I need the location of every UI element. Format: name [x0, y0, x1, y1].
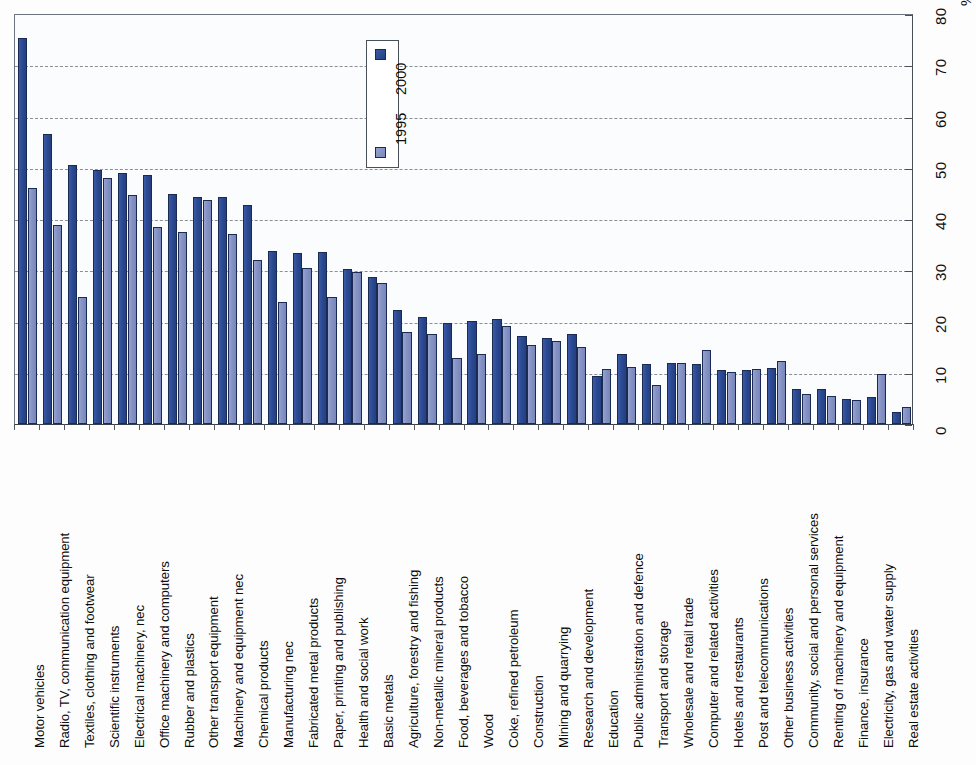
bar-1995-25 [652, 385, 661, 424]
bar-1995-1 [53, 225, 62, 424]
category-label-34: Electricity, gas and water supply [881, 564, 896, 748]
bar-2000-24 [617, 354, 626, 424]
category-tick-13 [339, 424, 340, 430]
category-tick-26 [663, 424, 664, 430]
category-label-14: Basic metals [381, 674, 396, 748]
bar-2000-15 [393, 310, 402, 424]
bar-1995-18 [477, 354, 486, 424]
category-label-26: Wholesale and retail trade [681, 597, 696, 748]
category-tick-12 [314, 424, 315, 430]
bar-1995-20 [527, 345, 536, 424]
category-label-2: Textiles, clothing and footwear [82, 575, 97, 748]
bar-2000-31 [792, 389, 801, 424]
category-label-11: Fabricated metal products [306, 598, 321, 748]
category-label-5: Office machinery and computers [157, 561, 172, 748]
category-label-24: Public administration and defence [631, 553, 646, 748]
gridline-60 [15, 118, 912, 119]
category-tick-end [913, 424, 914, 430]
bar-1995-7 [203, 200, 212, 424]
bar-2000-12 [318, 252, 327, 424]
bar-2000-27 [692, 364, 701, 424]
bar-1995-31 [802, 394, 811, 424]
category-label-28: Hotels and restaurants [731, 618, 746, 748]
category-tick-2 [64, 424, 65, 430]
value-tick-0 [905, 425, 912, 426]
bar-1995-9 [253, 260, 262, 425]
bar-1995-15 [402, 332, 411, 424]
value-label-70: 70 [932, 59, 949, 76]
category-label-18: Wood [481, 714, 496, 748]
bar-2000-33 [842, 399, 851, 424]
bar-1995-12 [327, 297, 336, 424]
category-label-19: Coke, refined petroleum [506, 610, 521, 748]
bar-2000-10 [268, 251, 277, 424]
category-tick-29 [738, 424, 739, 430]
category-tick-17 [439, 424, 440, 430]
category-tick-11 [289, 424, 290, 430]
category-label-20: Construction [531, 675, 546, 748]
bar-1995-11 [302, 268, 311, 424]
category-label-1: Radio, TV, communication equipment [57, 533, 72, 748]
category-label-15: Agriculture, forestry and fishing [406, 570, 421, 748]
category-tick-16 [414, 424, 415, 430]
category-label-13: Health and social work [356, 618, 371, 748]
bar-2000-6 [168, 194, 177, 424]
category-label-0: Motor vehicles [32, 664, 47, 748]
value-label-0: 0 [932, 426, 949, 435]
category-label-21: Mining and quarrying [556, 627, 571, 748]
bar-1995-13 [352, 272, 361, 424]
bar-1995-33 [852, 400, 861, 424]
bar-1995-22 [577, 347, 586, 424]
category-label-4: Electrical machinery, nec [132, 605, 147, 748]
value-label-10: 10 [932, 366, 949, 383]
bar-1995-23 [602, 369, 611, 424]
category-tick-25 [638, 424, 639, 430]
bar-2000-13 [343, 269, 352, 424]
category-tick-35 [888, 424, 889, 430]
bar-2000-23 [592, 376, 601, 424]
value-axis-unit-label: % [957, 0, 974, 6]
category-label-30: Other business activities [781, 608, 796, 748]
bar-1995-3 [103, 178, 112, 424]
bar-2000-21 [542, 338, 551, 424]
category-tick-30 [763, 424, 764, 430]
category-label-17: Food, beverages and tobacco [456, 576, 471, 748]
bar-2000-22 [567, 334, 576, 424]
category-tick-4 [114, 424, 115, 430]
value-label-20: 20 [932, 315, 949, 332]
value-tick-70 [905, 66, 912, 67]
category-tick-14 [364, 424, 365, 430]
category-tick-3 [89, 424, 90, 430]
bar-2000-26 [667, 363, 676, 424]
bar-1995-6 [178, 232, 187, 424]
category-tick-1 [39, 424, 40, 430]
bar-2000-28 [717, 370, 726, 424]
category-tick-10 [264, 424, 265, 430]
bar-2000-4 [118, 173, 127, 424]
bar-1995-16 [427, 334, 436, 424]
legend-swatch-2000 [375, 49, 386, 60]
category-tick-15 [389, 424, 390, 430]
bar-2000-9 [243, 205, 252, 424]
category-tick-27 [688, 424, 689, 430]
bar-1995-28 [727, 372, 736, 424]
category-tick-7 [189, 424, 190, 430]
value-tick-80 [905, 15, 912, 16]
category-label-3: Scientific instruments [107, 626, 122, 748]
value-tick-60 [905, 118, 912, 119]
category-label-27: Computer and related activities [706, 569, 721, 748]
category-label-35: Real estate activities [906, 629, 921, 748]
category-tick-21 [538, 424, 539, 430]
bar-2000-20 [517, 336, 526, 424]
bar-2000-11 [293, 253, 302, 424]
bar-2000-34 [867, 397, 876, 424]
bar-2000-35 [892, 412, 901, 424]
category-tick-20 [513, 424, 514, 430]
bar-1995-32 [827, 396, 836, 424]
bar-2000-3 [93, 170, 102, 424]
bar-1995-4 [128, 195, 137, 424]
category-label-7: Other transport equipment [206, 597, 221, 748]
category-tick-28 [713, 424, 714, 430]
bar-1995-27 [702, 350, 711, 424]
bar-1995-21 [552, 341, 561, 424]
